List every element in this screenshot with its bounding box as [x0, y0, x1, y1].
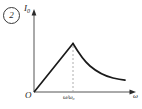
peak-tick-label: ω/ω₀ [63, 94, 74, 100]
curve-decaying-segment [73, 44, 125, 81]
curve-rising-segment [35, 44, 74, 92]
y-axis-arrowhead [32, 9, 37, 16]
x-axis-label: ω [133, 93, 138, 100]
y-axis-label: I0 [24, 4, 30, 14]
y-axis-subscript: 0 [27, 8, 30, 14]
resonance-plot [0, 0, 142, 109]
origin-label: O [25, 91, 32, 100]
item-number-badge: 2 [3, 7, 20, 24]
figure-container: 2 I0 O ω/ω₀ ω [0, 0, 142, 109]
